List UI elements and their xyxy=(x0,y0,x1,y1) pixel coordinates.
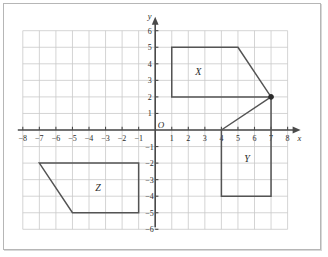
y-tick-label: −6 xyxy=(145,225,154,234)
y-tick-label: 4 xyxy=(148,60,152,69)
x-tick-label: 6 xyxy=(253,134,257,143)
x-tick-label: −7 xyxy=(35,134,44,143)
x-tick-label: 8 xyxy=(286,134,290,143)
x-tick-label: −6 xyxy=(52,134,61,143)
y-tick-label: −4 xyxy=(145,192,154,201)
y-tick-label: −1 xyxy=(145,143,154,152)
screenshot-frame: −8−7−6−5−4−3−2−112345678654321−1−2−3−4−5… xyxy=(0,0,328,257)
x-tick-label: −2 xyxy=(118,134,127,143)
y-tick-label: 6 xyxy=(148,27,152,36)
x-tick-label: 3 xyxy=(203,134,207,143)
coordinate-plane: −8−7−6−5−4−3−2−112345678654321−1−2−3−4−5… xyxy=(0,0,328,257)
shape-label-x: X xyxy=(194,66,202,77)
y-tick-label: 3 xyxy=(148,76,152,85)
shape-label-z: Z xyxy=(95,182,101,193)
origin-label: O xyxy=(158,120,165,130)
y-tick-label: 1 xyxy=(148,109,152,118)
x-tick-label: 2 xyxy=(186,134,190,143)
x-tick-label: 1 xyxy=(170,134,174,143)
y-tick-label: 2 xyxy=(148,93,152,102)
x-tick-label: −4 xyxy=(85,134,94,143)
x-tick-label: −8 xyxy=(19,134,28,143)
y-tick-label: −3 xyxy=(145,176,154,185)
y-tick-label: 5 xyxy=(148,43,152,52)
x-tick-label: −1 xyxy=(134,134,143,143)
y-tick-label: −2 xyxy=(145,159,154,168)
x-tick-label: −3 xyxy=(101,134,110,143)
shape-labels: XYZ xyxy=(95,66,251,193)
x-axis-label: x xyxy=(297,133,302,143)
x-tick-label: −5 xyxy=(68,134,77,143)
y-axis-arrow xyxy=(152,17,159,25)
x-tick-label: 5 xyxy=(236,134,240,143)
point-marker xyxy=(269,95,274,100)
y-tick-label: −5 xyxy=(145,209,154,218)
y-axis-label: y xyxy=(147,11,152,21)
plotted-points xyxy=(269,95,274,100)
